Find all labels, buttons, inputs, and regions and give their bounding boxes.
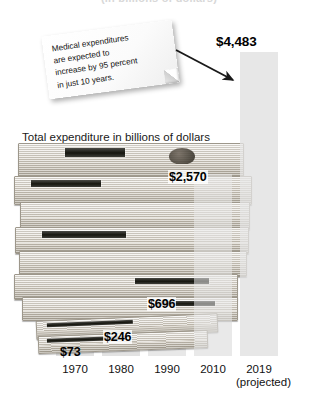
- medical-expenditures-infographic: (in billions of dollars): [0, 0, 318, 399]
